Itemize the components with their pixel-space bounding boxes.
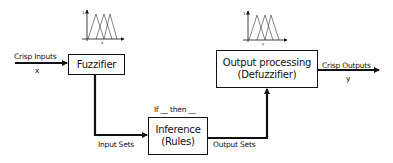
input-plot-y-tick: 1 bbox=[82, 11, 85, 15]
input-plot-x-label: x bbox=[101, 41, 103, 45]
output-membership-plot bbox=[243, 11, 287, 42]
input-variable-x: x bbox=[35, 67, 39, 75]
input-sets-label: Input Sets bbox=[98, 141, 134, 149]
crisp-outputs-label: Crisp Outputs bbox=[322, 62, 371, 70]
fuzzifier-block: Fuzzifier bbox=[68, 54, 125, 75]
output-sets-connector bbox=[208, 89, 267, 138]
output-processing-label: Output processing bbox=[223, 57, 311, 69]
input-membership-plot bbox=[82, 10, 124, 41]
input-sets-connector bbox=[95, 75, 147, 135]
rules-label: (Rules) bbox=[161, 136, 194, 148]
output-sets-label: Output Sets bbox=[213, 141, 255, 149]
defuzzifier-block: Output processing (Defuzzifier) bbox=[216, 50, 318, 88]
rule-caption: If __ then __ bbox=[154, 106, 195, 114]
fuzzifier-label: Fuzzifier bbox=[77, 59, 117, 71]
inference-block: Inference (Rules) bbox=[148, 117, 208, 155]
output-plot-x-label: y bbox=[262, 42, 264, 46]
output-plot-y-tick: 1 bbox=[243, 12, 246, 16]
output-variable-y: y bbox=[346, 75, 350, 83]
defuzzifier-label: (Defuzzifier) bbox=[238, 69, 297, 81]
inference-label: Inference bbox=[155, 124, 200, 136]
crisp-inputs-label: Crisp Inputs bbox=[14, 53, 56, 61]
